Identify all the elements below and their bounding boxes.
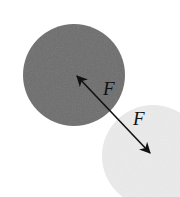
- force-label-on-light-sphere: F: [132, 108, 145, 129]
- force-label-on-dark-sphere: F: [102, 78, 115, 99]
- two-sphere-force-diagram: F F: [0, 0, 180, 197]
